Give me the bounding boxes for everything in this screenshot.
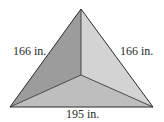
right-edge-label: 166 in.	[120, 45, 153, 57]
left-edge-label: 166 in.	[13, 45, 46, 57]
bottom-edge-label: 195 in.	[66, 108, 99, 120]
pyramid-diagram	[0, 0, 164, 122]
